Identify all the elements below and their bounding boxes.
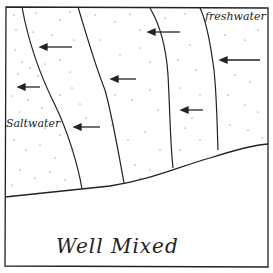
diagram-title: Well Mixed <box>56 234 179 258</box>
arrow-icon <box>111 76 136 82</box>
isohaline-line-4 <box>200 8 218 150</box>
arrow-icon <box>148 29 180 35</box>
arrow-icon <box>40 44 72 50</box>
isohaline-line-1 <box>22 7 82 189</box>
freshwater-label: freshwater <box>205 10 266 23</box>
arrow-icon <box>181 107 203 113</box>
isohaline-line-2 <box>78 7 124 183</box>
saltwater-label: Saltwater <box>6 117 60 130</box>
arrow-icon <box>74 124 100 130</box>
seafloor-line <box>5 144 268 197</box>
estuary-diagram <box>0 0 273 273</box>
arrow-icon <box>18 84 40 90</box>
water-stipple <box>11 11 262 185</box>
arrow-icon <box>220 57 260 63</box>
